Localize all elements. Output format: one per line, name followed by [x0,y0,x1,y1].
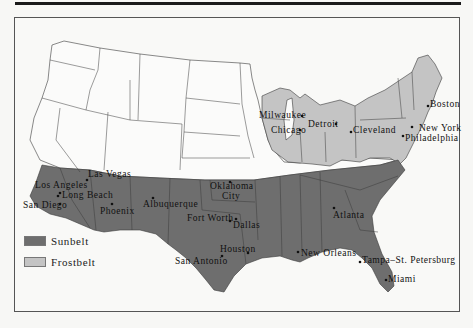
city-label: Miami [388,274,416,284]
city-label: New York [419,123,462,133]
city-label: Cleveland [353,125,396,135]
city-label: City [222,191,240,201]
legend-item-sunbelt: Sunbelt [24,235,89,247]
city-label: Atlanta [333,210,365,220]
city-label: Fort Worth [187,213,234,223]
city-label: Milwaukee [259,110,306,120]
city-label: San Antonio [175,256,228,266]
city-label: San Diego [23,200,67,210]
city-label: Phoenix [100,206,135,216]
city-label: Chicago [271,125,306,135]
city-label: Long Beach [62,190,113,200]
frostbelt-swatch [24,257,46,267]
city-label: Detroit [308,119,338,129]
city-label: Dallas [233,220,260,230]
city-label: Oklahoma [210,181,254,191]
city-label: Boston [430,99,460,109]
city-label: Los Angeles [35,180,88,190]
legend-label: Frostbelt [51,256,96,268]
city-label: Philadelphia [405,133,459,143]
city-label: New Orleans [301,248,356,258]
city-label: Albuquerque [143,199,198,209]
city-label: Tampa–St. Petersburg [362,255,456,265]
sunbelt-swatch [24,236,46,246]
us-map: Las Vegas Los Angeles Long Beach San Die… [0,0,473,328]
city-label: Houston [220,244,256,254]
city-label: Las Vegas [88,169,131,179]
legend-item-frostbelt: Frostbelt [24,256,96,268]
legend-label: Sunbelt [51,235,89,247]
